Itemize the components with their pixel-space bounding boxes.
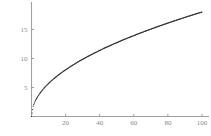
data-point: [32, 109, 33, 110]
data-point: [31, 116, 32, 117]
x-tick-label-80: 80: [164, 119, 172, 127]
chart-figure: 20406080100 51015: [0, 0, 211, 136]
data-point: [35, 100, 36, 101]
data-point: [33, 104, 34, 105]
data-point: [33, 105, 34, 106]
y-tick-label-10: 10: [21, 55, 29, 63]
x-tick-label-20: 20: [62, 119, 70, 127]
x-tick-label-100: 100: [197, 119, 208, 127]
x-axis-tick-labels: 20406080100: [62, 119, 208, 127]
data-point: [201, 11, 202, 12]
data-point: [34, 103, 35, 104]
y-tick-label-5: 5: [24, 84, 28, 92]
axes-group: [31, 2, 209, 117]
data-series-group: [31, 11, 203, 117]
y-axis-tick-labels: 51015: [21, 26, 29, 92]
data-point: [34, 101, 35, 102]
plot-canvas: 20406080100 51015: [0, 0, 211, 136]
x-tick-label-60: 60: [130, 119, 138, 127]
series-0: [31, 11, 203, 117]
data-point: [31, 112, 32, 113]
x-tick-label-40: 40: [96, 119, 104, 127]
data-point: [35, 99, 36, 100]
y-tick-label-15: 15: [21, 26, 29, 34]
